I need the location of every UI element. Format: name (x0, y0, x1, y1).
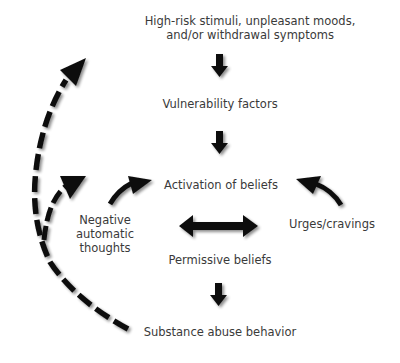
curved-arrow-icon (110, 176, 152, 204)
double-arrow-icon (179, 215, 258, 237)
node-negative-line2: automatic (70, 227, 140, 241)
down-arrow-icon (211, 131, 228, 154)
curved-arrow-icon (296, 176, 341, 205)
node-permissive: Permissive beliefs (165, 253, 275, 267)
node-stimuli-line2: and/or withdrawal symptoms (140, 28, 360, 42)
node-negative-line3: thoughts (70, 241, 140, 255)
down-arrow-icon (210, 283, 227, 306)
down-arrow-icon (211, 54, 228, 77)
node-stimuli-line1: High-risk stimuli, unpleasant moods, (140, 14, 360, 28)
node-vulnerability: Vulnerability factors (150, 97, 290, 111)
feedback-dashed-arrow-icon (35, 58, 128, 329)
node-urges: Urges/cravings (284, 217, 380, 231)
node-negative-thoughts: Negative automatic thoughts (70, 213, 140, 255)
node-activation: Activation of beliefs (160, 178, 282, 192)
node-stimuli: High-risk stimuli, unpleasant moods, and… (140, 14, 360, 42)
node-substance: Substance abuse behavior (140, 325, 300, 339)
node-negative-line1: Negative (70, 213, 140, 227)
